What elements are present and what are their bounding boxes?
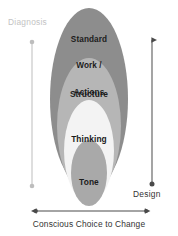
axis-label-diagnosis: Diagnosis: [8, 18, 47, 27]
axis-diagnosis-top-dot: [30, 40, 35, 45]
axis-design: [150, 40, 155, 187]
ring-label-line: Tone: [52, 178, 126, 187]
ring-label-line: Work /: [52, 62, 126, 71]
axis-conscious-choice: [34, 209, 148, 213]
axis-bottom-right-dot: [144, 209, 148, 213]
ring-label-structure: Structure: [52, 72, 126, 117]
ring-label-line: Thinking: [52, 135, 126, 144]
ring-label-line: Structure: [52, 90, 126, 99]
axis-diagnosis-bottom-dot: [30, 184, 35, 189]
axis-label-design: Design: [133, 190, 161, 199]
diagram-canvas: Standard Work / Actions Structure Thinki…: [0, 0, 178, 236]
ring-label-line: Standard: [52, 36, 126, 45]
axis-bottom-left-dot: [34, 209, 38, 213]
axis-diagnosis: [30, 40, 35, 189]
ring-label-tone: Tone: [52, 160, 126, 205]
axis-design-bottom-dot: [150, 182, 155, 187]
axis-label-conscious-choice-to-change: Conscious Choice to Change: [0, 220, 178, 229]
ring-label-thinking: Thinking: [52, 117, 126, 162]
